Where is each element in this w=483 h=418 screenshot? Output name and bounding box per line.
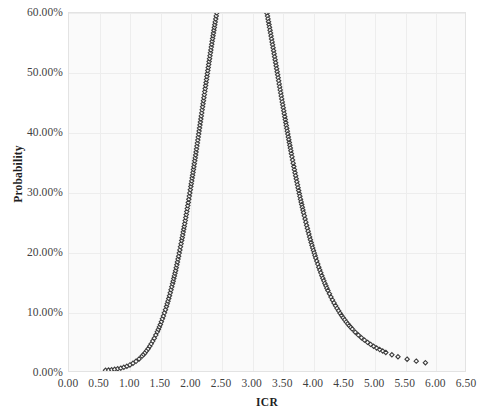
probability-series xyxy=(69,13,465,371)
y-tick-label: 30.00% xyxy=(1,186,63,198)
data-point-marker xyxy=(396,355,400,359)
y-tick-label: 50.00% xyxy=(1,66,63,78)
data-point-marker xyxy=(390,353,394,357)
y-axis-title: Probability xyxy=(12,129,24,219)
y-tick-label: 20.00% xyxy=(1,246,63,258)
plot-area xyxy=(68,12,466,372)
data-point-marker xyxy=(414,359,418,363)
data-point-marker xyxy=(423,361,427,365)
y-tick-label: 60.00% xyxy=(1,6,63,18)
data-point-marker xyxy=(405,357,409,361)
chart-figure: 0.00%10.00%20.00%30.00%40.00%50.00%60.00… xyxy=(0,0,483,418)
y-axis-tick-labels: 0.00%10.00%20.00%30.00%40.00%50.00%60.00… xyxy=(0,0,63,418)
x-axis-title: ICR xyxy=(68,396,466,408)
x-tick-label: 6.50 xyxy=(444,376,483,390)
x-axis-tick-labels: 0.000.501.001.502.002.503.003.504.004.50… xyxy=(0,376,483,392)
y-tick-label: 40.00% xyxy=(1,126,63,138)
y-tick-label: 10.00% xyxy=(1,306,63,318)
